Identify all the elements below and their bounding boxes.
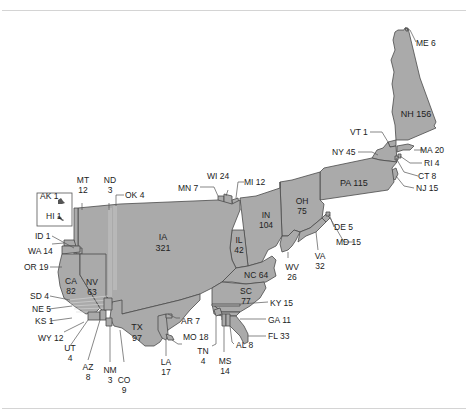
state-MS: [222, 314, 226, 326]
label-IA-value: 321: [148, 243, 178, 254]
label-MT-abbr: MT: [74, 175, 92, 185]
state-AL: [226, 314, 230, 326]
label-MS-abbr: MS: [216, 356, 234, 366]
label-ME: ME 6: [416, 38, 436, 48]
label-OR: OR 19: [24, 262, 49, 272]
label-OH-abbr: OH: [290, 196, 314, 206]
label-AZ-value: 8: [80, 372, 96, 382]
label-NV-value: 63: [83, 287, 101, 297]
label-WI: WI 24: [207, 171, 229, 181]
label-IN: IN 104: [254, 210, 278, 230]
label-WA: WA 14: [28, 246, 53, 256]
state-MO: [166, 334, 174, 340]
label-AR: AR 7: [181, 316, 200, 326]
label-IA-abbr: IA: [148, 232, 178, 243]
label-FL: FL 33: [268, 331, 289, 341]
label-IL-value: 42: [229, 245, 249, 255]
state-NM: [106, 318, 112, 326]
label-ID: ID 1: [35, 231, 51, 241]
label-ND-value: 3: [101, 185, 119, 195]
label-RI: RI 4: [424, 158, 440, 168]
state-KY: [212, 304, 240, 306]
label-UT: UT 4: [62, 343, 78, 363]
label-CO-abbr: CO: [116, 375, 132, 385]
label-KS: KS 1: [35, 316, 53, 326]
label-VA-abbr: VA: [312, 251, 328, 261]
label-NV-abbr: NV: [83, 277, 101, 287]
label-MS-value: 14: [216, 366, 234, 376]
label-MS: MS 14: [216, 356, 234, 376]
label-AZ-abbr: AZ: [80, 362, 96, 372]
label-NC: NC 64: [244, 270, 268, 280]
label-CO: CO 9: [116, 375, 132, 395]
state-WA: [64, 240, 76, 246]
label-CT: CT 8: [418, 171, 436, 181]
label-NE: NE 5: [32, 304, 51, 314]
label-DE: DE 5: [334, 222, 353, 232]
label-CA-value: 82: [62, 286, 80, 296]
label-UT-value: 4: [62, 353, 78, 363]
label-IA: IA 321: [148, 232, 178, 254]
label-ND: ND 3: [101, 175, 119, 195]
label-IL-abbr: IL: [229, 235, 249, 245]
label-IN-abbr: IN: [254, 210, 278, 220]
label-TX-abbr: TX: [128, 322, 146, 333]
label-MT-value: 12: [74, 185, 92, 195]
label-PA-value: 115: [353, 178, 367, 188]
state-UT: [88, 312, 100, 320]
label-NY: NY 45: [332, 147, 355, 157]
label-TN-value: 4: [195, 356, 211, 366]
label-MA: MA 20: [420, 145, 444, 155]
label-SC: SC 77: [237, 286, 255, 306]
label-NH-value: 156: [416, 109, 431, 119]
label-NJ: NJ 15: [416, 183, 438, 193]
label-MO: MO 18: [183, 332, 209, 342]
label-LA-abbr: LA: [157, 357, 175, 367]
label-TN-abbr: TN: [195, 346, 211, 356]
label-CA-abbr: CA: [62, 276, 80, 286]
label-SD: SD 4: [30, 291, 49, 301]
label-VA-value: 32: [312, 261, 328, 271]
label-TN: TN 4: [195, 346, 211, 366]
label-SC-abbr: SC: [237, 286, 255, 296]
label-NC-abbr: NC: [244, 270, 256, 280]
label-ND-abbr: ND: [101, 175, 119, 185]
label-NH: NH 156: [396, 109, 436, 120]
label-KY: KY 15: [270, 298, 293, 308]
label-NC-value: 64: [259, 270, 268, 280]
label-WY: WY 12: [38, 333, 63, 343]
label-MI: MI 12: [244, 177, 265, 187]
label-OK: OK 4: [125, 190, 144, 200]
label-TX: TX 97: [128, 322, 146, 344]
label-PA: PA 115: [340, 178, 368, 189]
label-NM-abbr: NM: [101, 365, 119, 375]
label-NH-abbr: NH: [401, 109, 414, 119]
label-AZ: AZ 8: [80, 362, 96, 382]
label-MD: MD 15: [336, 237, 361, 247]
label-VA: VA 32: [312, 251, 328, 271]
label-UT-abbr: UT: [62, 343, 78, 353]
label-IL: IL 42: [229, 235, 249, 255]
label-VT: VT 1: [350, 127, 368, 137]
label-MT: MT 12: [74, 175, 92, 195]
label-LA-value: 17: [157, 367, 175, 377]
state-WY: [104, 298, 112, 310]
state-MA: [397, 144, 414, 152]
label-OH: OH 75: [290, 196, 314, 216]
label-WV-abbr: WV: [282, 262, 302, 272]
label-WV-value: 26: [282, 272, 302, 282]
label-IN-value: 104: [254, 220, 278, 230]
label-MN: MN 7: [178, 183, 198, 193]
label-PA-abbr: PA: [340, 178, 351, 188]
label-CO-value: 9: [116, 385, 132, 395]
label-WV: WV 26: [282, 262, 302, 282]
label-TX-value: 97: [128, 333, 146, 344]
label-OH-value: 75: [290, 206, 314, 216]
label-LA: LA 17: [157, 357, 175, 377]
label-HI: HI 1: [46, 211, 62, 221]
state-AZ: [100, 310, 106, 320]
label-AL: AL 8: [236, 340, 253, 350]
label-GA: GA 11: [268, 315, 291, 325]
label-AK: AK 1: [40, 191, 58, 201]
label-NV: NV 63: [83, 277, 101, 297]
